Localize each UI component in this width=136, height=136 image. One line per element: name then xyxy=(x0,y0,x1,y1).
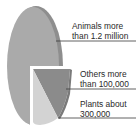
label-animals: Animals more than 1.2 million xyxy=(72,21,128,41)
label-plants: Plants about 300,000 xyxy=(80,99,127,119)
label-others-line1: Others more xyxy=(80,69,129,79)
label-animals-line2: than 1.2 million xyxy=(72,31,128,41)
label-others: Others more than 100,000 xyxy=(80,69,129,89)
label-plants-line1: Plants about xyxy=(80,99,127,109)
label-others-line2: than 100,000 xyxy=(80,79,129,89)
label-animals-line1: Animals more xyxy=(72,21,128,31)
label-plants-line2: 300,000 xyxy=(80,109,127,119)
